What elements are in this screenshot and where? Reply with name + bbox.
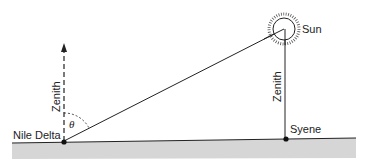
syene-label: Syene bbox=[290, 123, 321, 135]
sun-icon bbox=[264, 14, 299, 45]
nile-delta-point bbox=[61, 139, 66, 144]
angle-arc bbox=[64, 113, 89, 128]
sun-ray-line bbox=[64, 29, 284, 141]
zenith-label-right: Zenith bbox=[271, 71, 283, 102]
nile-delta-label: Nile Delta bbox=[13, 129, 62, 141]
syene-point bbox=[283, 136, 288, 141]
arrowhead-icon bbox=[61, 43, 67, 52]
eratosthenes-diagram: Sun Nile Delta Syene θ Zenith Zenith bbox=[0, 0, 367, 164]
sun-label: Sun bbox=[302, 23, 322, 35]
angle-label: θ bbox=[69, 118, 75, 130]
zenith-label-left: Zenith bbox=[50, 81, 62, 112]
